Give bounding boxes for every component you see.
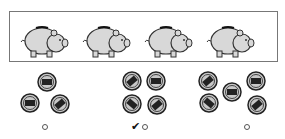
coin-icon (247, 95, 267, 115)
coin-icon (222, 82, 242, 102)
answer-radio-3[interactable] (244, 124, 250, 130)
piggy-bank-icon (144, 21, 196, 59)
piggy-bank-icon (206, 21, 258, 59)
coin-icon (37, 72, 57, 92)
coin-icon (146, 71, 166, 91)
coin-icon (246, 71, 266, 91)
check-mark-icon: ✔ (131, 121, 140, 132)
coin-icon (147, 95, 167, 115)
coin-icon (122, 71, 142, 91)
pigs-panel (9, 11, 278, 62)
coin-icon (20, 93, 40, 113)
answer-radio-2[interactable] (142, 124, 148, 130)
coin-icon (50, 94, 70, 114)
piggy-bank-icon (82, 21, 134, 59)
answer-radio-1[interactable] (42, 124, 48, 130)
coin-icon (199, 93, 219, 113)
coin-icon (198, 71, 218, 91)
piggy-bank-icon (20, 21, 72, 59)
coin-icon (122, 94, 142, 114)
